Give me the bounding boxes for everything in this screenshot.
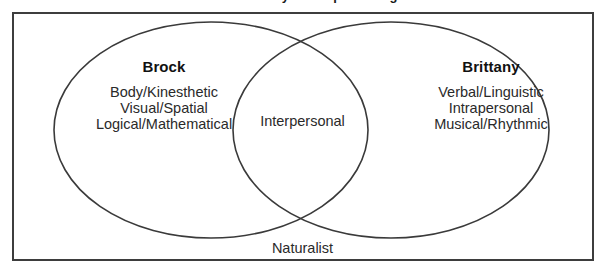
right-set-item: Musical/Rhythmic [385,116,597,132]
right-set-title: Brittany [385,58,597,75]
left-set-item: Logical/Mathematical [58,116,270,132]
clipped-caption-text: Brock and Brittany's Multiple Intelligen… [0,0,607,3]
universe-rectangle [12,12,594,261]
right-set-item: Verbal/Linguistic [385,84,597,100]
left-set-item: Visual/Spatial [58,100,270,116]
left-set-group: Brock Body/Kinesthetic Visual/Spatial Lo… [58,58,270,132]
left-set-item: Body/Kinesthetic [58,84,270,100]
universe-label: Naturalist [240,240,365,256]
right-set-item: Intrapersonal [385,100,597,116]
right-set-group: Brittany Verbal/Linguistic Intrapersonal… [385,58,597,132]
right-set-list: Verbal/Linguistic Intrapersonal Musical/… [385,84,597,132]
venn-diagram-canvas: Brock and Brittany's Multiple Intelligen… [0,0,607,273]
intersection-label: Interpersonal [240,113,365,129]
clipped-caption-strip: Brock and Brittany's Multiple Intelligen… [0,0,607,9]
left-set-title: Brock [58,58,270,75]
left-set-list: Body/Kinesthetic Visual/Spatial Logical/… [58,84,270,132]
